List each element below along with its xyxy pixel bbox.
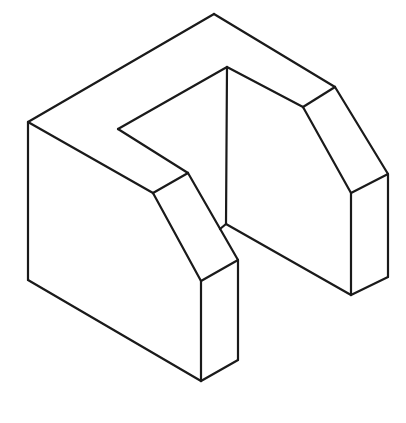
left-top-front-edge <box>28 122 153 193</box>
slot-back-vertical <box>226 67 227 224</box>
block-figure <box>0 0 406 423</box>
right-chamfer-top <box>303 87 335 107</box>
right-chamfer-inner <box>303 107 351 193</box>
left-bottom-edge <box>28 280 201 381</box>
left-chamfer-outer <box>153 193 201 281</box>
left-chamfer-inner <box>188 173 238 260</box>
left-post-bottom <box>201 360 238 381</box>
left-chamfer-top <box>153 173 188 193</box>
right-post-top <box>351 174 388 193</box>
left-post-top <box>201 260 238 281</box>
isometric-drawing <box>0 0 406 423</box>
notch-back-edge <box>118 67 227 129</box>
top-right-edge <box>214 14 335 87</box>
right-post-bottom <box>351 277 388 295</box>
notch-front-edge <box>118 129 188 173</box>
top-left-edge <box>28 14 214 122</box>
slot-floor-right <box>226 224 351 295</box>
slot-right-top-edge <box>227 67 303 107</box>
slot-floor-junction <box>220 224 226 229</box>
right-chamfer-outer <box>335 87 388 174</box>
